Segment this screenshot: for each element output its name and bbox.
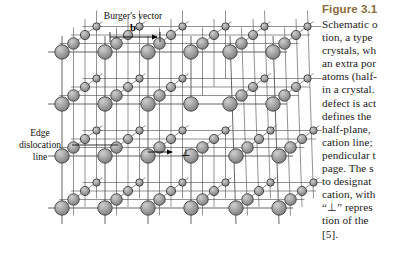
lattice-atom: [80, 134, 89, 143]
lattice-atom: [93, 75, 100, 82]
caption-line: crystals, wh: [322, 44, 396, 57]
lattice-bond: [308, 11, 314, 199]
lattice-atom: [98, 149, 112, 163]
lattice-atom: [123, 186, 132, 195]
figure-page: Burger's vector b Edge dislocation line …: [0, 0, 396, 269]
lattice-atom: [141, 45, 155, 59]
lattice-atom: [272, 149, 286, 163]
lattice-svg: Burger's vector b Edge dislocation line …: [0, 0, 322, 269]
lattice-atom: [209, 186, 218, 195]
lattice-atom: [179, 179, 186, 186]
lattice-atom: [267, 179, 274, 186]
lattice-atom: [285, 194, 297, 206]
caption-line: [5].: [322, 228, 396, 241]
lattice-atom: [291, 30, 300, 39]
lattice-atom: [93, 179, 100, 186]
lattice-atom: [279, 38, 291, 50]
lattice-atom: [304, 75, 311, 82]
edge-dislocation-line-2: dislocation: [19, 139, 61, 150]
lattice-atom: [209, 30, 218, 39]
caption-line: cation, with: [322, 188, 396, 201]
lattice-atom: [261, 23, 268, 30]
lattice-atom: [154, 142, 166, 154]
lattice-atom: [123, 82, 132, 91]
lattice-atom: [179, 75, 186, 82]
caption-line: “⊥” repres: [322, 201, 396, 214]
lattice-atom: [254, 186, 263, 195]
lattice-atom: [55, 45, 69, 59]
lattice-atom: [68, 38, 80, 50]
lattice-atom: [166, 82, 175, 91]
lattice-atom: [80, 30, 89, 39]
lattice-atom: [248, 30, 257, 39]
lattice-atom: [184, 45, 198, 59]
lattice-atom: [236, 90, 248, 102]
lattice-bond: [296, 19, 302, 207]
lattice-atom: [248, 82, 257, 91]
edge-dislocation-line-1: Edge: [30, 127, 50, 138]
lattice-atom: [111, 194, 123, 206]
lattice-atom: [166, 30, 175, 39]
lattice-atom: [266, 97, 280, 111]
figure-caption-column: Figure 3.1 Schematic otion, a typecrysta…: [322, 0, 396, 269]
lattice-atom: [98, 97, 112, 111]
lattice-atom: [279, 90, 291, 102]
lattice-atom: [223, 97, 237, 111]
lattice-atom: [136, 23, 143, 30]
lattice-atom: [236, 38, 248, 50]
figure-title: Figure 3.1: [322, 3, 396, 16]
lattice-atom: [229, 201, 243, 215]
lattice-atom: [141, 97, 155, 111]
lattice-atom: [222, 179, 229, 186]
lattice-atom: [154, 38, 166, 50]
lattice-atom: [80, 186, 89, 195]
lattice-atom: [242, 194, 254, 206]
lattice-atom: [141, 149, 155, 163]
caption-line: tion, a type: [322, 31, 396, 44]
caption-line: defect is act: [322, 97, 396, 110]
lattice-atom: [209, 134, 218, 143]
figure-caption-body: Schematic otion, a typecrystals, whan ex…: [322, 18, 396, 241]
lattice-atom: [136, 127, 143, 134]
lattice-atom: [68, 90, 80, 102]
lattice-atom: [179, 23, 186, 30]
lattice-atom: [197, 38, 209, 50]
lattice-atom: [297, 186, 306, 195]
lattice-bond: [230, 36, 236, 224]
burgers-vector-label: Burger's vector: [104, 10, 163, 21]
lattice-atom: [285, 142, 297, 154]
lattice-atom: [242, 142, 254, 154]
lattice-atom: [141, 201, 155, 215]
lattice-atom: [80, 82, 89, 91]
lattice-atom: [266, 45, 280, 59]
lattice-atom: [98, 201, 112, 215]
lattice-atom: [93, 127, 100, 134]
lattice-atom: [291, 82, 300, 91]
lattice-atom: [166, 186, 175, 195]
lattice-atom: [254, 134, 263, 143]
caption-line: cation line;: [322, 136, 396, 149]
lattice-atom: [222, 23, 229, 30]
lattice-atom: [304, 23, 311, 30]
lattice-atom: [179, 127, 186, 134]
caption-line: page. The s: [322, 162, 396, 175]
lattice-atom: [111, 142, 123, 154]
lattice-atom: [111, 90, 123, 102]
lattice-atom: [166, 134, 175, 143]
lattice-atom: [297, 134, 306, 143]
lattice-atom: [111, 38, 123, 50]
lattice-atom: [98, 45, 112, 59]
caption-line: half-plane,: [322, 123, 396, 136]
dislocation-tack-icon: ⊥: [181, 146, 191, 158]
lattice-atom: [136, 75, 143, 82]
caption-line: tion of the: [322, 214, 396, 227]
lattice-bond: [242, 28, 248, 216]
lattice-atom: [68, 194, 80, 206]
lattice-atom: [197, 142, 209, 154]
caption-line: atoms (half-: [322, 70, 396, 83]
caption-line: in a crystal.: [322, 83, 396, 96]
caption-line: Schematic o: [322, 18, 396, 31]
lattice-atom: [154, 194, 166, 206]
lattice-atom: [197, 194, 209, 206]
lattice-atom: [93, 23, 100, 30]
